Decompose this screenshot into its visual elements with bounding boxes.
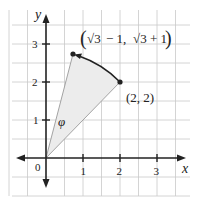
- rotation-diagram: 1 2 3 1 2 3 0 x y (2, 2) ( √3 − 1, √3 + …: [0, 0, 198, 202]
- y-tick-label-2: 2: [32, 76, 38, 88]
- y-axis-up-arrow-icon: [43, 14, 50, 23]
- x-axis: [16, 154, 186, 162]
- y-tick-label-3: 3: [32, 38, 38, 50]
- x-tick-label-1: 1: [81, 165, 87, 177]
- label-minus-one: − 1,: [106, 31, 126, 46]
- x-axis-label: x: [181, 161, 189, 176]
- point-rotated: [70, 51, 75, 56]
- point-2-2-label: (2, 2): [126, 90, 154, 105]
- x-tick-label-3: 3: [154, 165, 160, 177]
- label-sqrt3-b: √3: [133, 31, 147, 46]
- rotated-point-label: ( √3 − 1, √3 + 1 ): [80, 27, 172, 50]
- origin-label: 0: [35, 161, 41, 173]
- y-axis-down-arrow-icon: [43, 179, 50, 188]
- point-2-2: [117, 79, 122, 84]
- label-close-paren: ): [165, 27, 172, 50]
- y-tick-label-1: 1: [33, 114, 39, 126]
- x-axis-left-arrow-icon: [16, 155, 25, 162]
- angle-phi-label: φ: [58, 114, 65, 129]
- label-sqrt3-a: √3: [87, 31, 101, 46]
- x-tick-label-2: 2: [117, 165, 123, 177]
- y-axis-label: y: [33, 7, 42, 22]
- label-open-paren: (: [80, 27, 87, 50]
